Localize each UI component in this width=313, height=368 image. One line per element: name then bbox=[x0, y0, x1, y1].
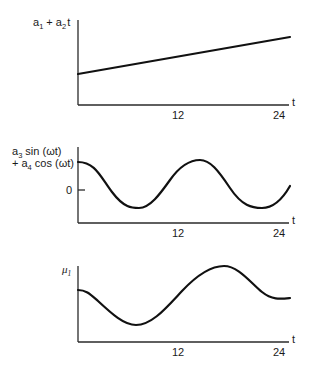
combined-curve bbox=[78, 266, 290, 325]
panel-combined-mean: μ1 t 12 24 bbox=[61, 263, 295, 358]
trend-line bbox=[78, 37, 290, 74]
panel-linear-trend: a1 + a2t t 12 24 bbox=[33, 16, 295, 121]
diagram-canvas: a1 + a2t t 12 24 a3 sin (ωt) + a4 cos (ω… bbox=[0, 0, 313, 368]
y-tick-label-zero: 0 bbox=[66, 184, 72, 196]
x-tick-label-12: 12 bbox=[172, 346, 184, 358]
x-tick-label-12: 12 bbox=[172, 109, 184, 121]
x-axis-label: t bbox=[292, 96, 295, 108]
seasonal-curve bbox=[78, 160, 290, 208]
panel-seasonal: a3 sin (ωt) + a4 cos (ωt) 0 t 12 24 bbox=[12, 145, 295, 239]
x-tick-label-24: 24 bbox=[273, 109, 285, 121]
x-tick-label-24: 24 bbox=[273, 227, 285, 239]
x-tick-label-24: 24 bbox=[273, 346, 285, 358]
y-axis-label: a1 + a2t bbox=[33, 16, 70, 31]
x-tick-label-12: 12 bbox=[172, 227, 184, 239]
y-axis-label: μ1 bbox=[61, 263, 71, 278]
x-axis-label: t bbox=[292, 333, 295, 345]
x-axis-label: t bbox=[292, 214, 295, 226]
y-axis-label-line2: + a4 cos (ωt) bbox=[12, 157, 74, 172]
